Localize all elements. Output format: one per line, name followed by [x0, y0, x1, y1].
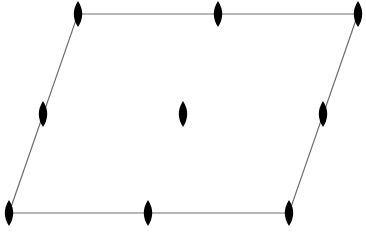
- twofold-axis-icon-edge-mid-bottom: [144, 200, 152, 226]
- twofold-axis-icon-cell-center: [179, 101, 187, 127]
- unit-cell-canvas: [0, 0, 366, 233]
- twofold-axis-icon-edge-mid-top: [214, 1, 222, 27]
- twofold-axis-symbols: [5, 1, 362, 226]
- lattice-diagram: [0, 0, 366, 233]
